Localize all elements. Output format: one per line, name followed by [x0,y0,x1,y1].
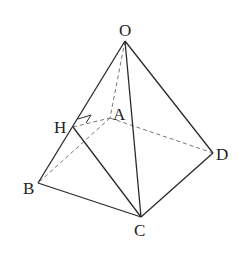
label-D: D [216,145,228,164]
edge-AD [110,118,213,153]
edge-BC [38,183,141,217]
label-H: H [54,118,66,137]
edge-CD [141,153,213,217]
edge-OD [125,41,213,153]
edge-OB [38,41,125,183]
label-O: O [119,21,131,40]
label-A: A [113,105,126,124]
right-angle-mark [78,115,91,123]
label-B: B [23,179,34,198]
segment-HC [73,127,141,217]
pyramid-figure: O A H B C D [0,0,250,256]
pyramid-diagram: O A H B C D [0,0,250,256]
label-C: C [134,221,145,240]
edge-OC [125,41,141,217]
